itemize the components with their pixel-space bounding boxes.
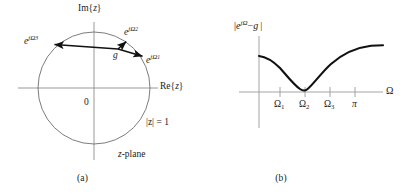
magnitude-curve <box>259 45 383 90</box>
tick-label-omega1: Ω1 <box>274 100 284 110</box>
zplane-label: z-plane <box>118 150 145 160</box>
point-label-omega3: ejΩ3 <box>24 35 38 47</box>
point-label-omega2: ejΩ2 <box>124 26 138 38</box>
zplane-svg <box>0 0 201 194</box>
real-axis-label: Re{z} <box>160 82 183 92</box>
imaginary-axis-label: Im{z} <box>78 4 101 14</box>
tick-label-pi: π <box>352 100 357 110</box>
unit-circle-label: |z| = 1 <box>146 118 169 128</box>
plot-x-axis-label: Ω <box>386 86 393 96</box>
magnitude-plot-svg <box>201 0 403 194</box>
point-label-omega1: ejΩ1 <box>146 54 160 66</box>
caption-b: (b) <box>201 173 361 183</box>
vector-g-to-omega3 <box>55 45 119 49</box>
vector-g-to-omega2 <box>118 42 126 49</box>
tick-label-omega2: Ω2 <box>299 100 309 110</box>
vector-origin-label-g: g <box>113 51 118 61</box>
tick-label-omega3: Ω3 <box>324 100 334 110</box>
panel-a-zplane: Im{z} Re{z} 0 |z| = 1 z-plane ejΩ1 ejΩ2 … <box>0 0 201 194</box>
caption-a: (a) <box>0 173 165 183</box>
figure-container: Im{z} Re{z} 0 |z| = 1 z-plane ejΩ1 ejΩ2 … <box>0 0 403 194</box>
vector-g-to-omega1 <box>118 49 143 56</box>
panel-b-magnitude-plot: |ejΩ−g | Ω Ω1 Ω2 Ω3 π <box>201 0 403 194</box>
origin-label: 0 <box>84 98 89 108</box>
plot-y-axis-label: |ejΩ−g | <box>234 20 262 31</box>
